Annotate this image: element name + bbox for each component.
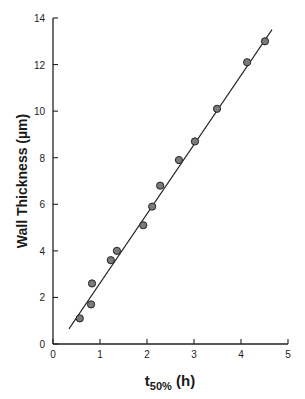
data-point	[149, 203, 156, 210]
data-point	[191, 138, 198, 145]
y-tick-label: 4	[39, 246, 45, 257]
x-tick-label: 1	[97, 349, 103, 360]
y-tick-label: 2	[39, 292, 45, 303]
data-point	[113, 247, 120, 254]
data-point	[76, 315, 83, 322]
y-tick-label: 12	[34, 60, 46, 71]
x-tick-label: 4	[238, 349, 244, 360]
x-tick-label: 5	[285, 349, 291, 360]
x-tick-label: 0	[50, 349, 56, 360]
y-tick-label: 10	[34, 106, 46, 117]
data-point	[213, 105, 220, 112]
data-point	[261, 38, 268, 45]
data-point	[87, 301, 94, 308]
y-tick-label: 8	[39, 153, 45, 164]
data-point	[157, 182, 164, 189]
x-axis-label: t50% (h)	[145, 372, 195, 392]
y-tick-label: 14	[34, 13, 46, 24]
data-point	[244, 59, 251, 66]
data-point	[107, 257, 114, 264]
data-points	[76, 38, 268, 322]
regression-line	[69, 30, 272, 329]
data-point	[88, 280, 95, 287]
y-tick-label: 6	[39, 199, 45, 210]
data-point	[175, 156, 182, 163]
fit-line	[69, 30, 272, 329]
y-axis-label: Wall Thickness (µm)	[14, 114, 30, 248]
x-tick-label: 3	[191, 349, 197, 360]
y-tick-label: 0	[39, 339, 45, 350]
x-tick-label: 2	[144, 349, 150, 360]
data-point	[140, 222, 147, 229]
scatter-chart: 01234502468101214 t50% (h) Wall Thicknes…	[0, 0, 305, 399]
